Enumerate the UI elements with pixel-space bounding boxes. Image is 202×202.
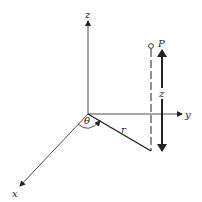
diagram-svg: z y x P r θ z: [0, 0, 202, 202]
theta-label: θ: [84, 115, 90, 126]
y-axis-label: y: [184, 109, 191, 120]
point-p-marker: [149, 44, 154, 49]
height-z-label: z: [158, 88, 165, 99]
cylindrical-coordinates-diagram: z y x P r θ z: [0, 0, 202, 202]
x-axis: [20, 114, 88, 186]
point-p-label: P: [157, 38, 165, 49]
x-axis-label: x: [12, 188, 18, 199]
z-axis-label: z: [84, 9, 91, 20]
radius-line: [88, 114, 151, 151]
radius-label: r: [121, 124, 127, 135]
